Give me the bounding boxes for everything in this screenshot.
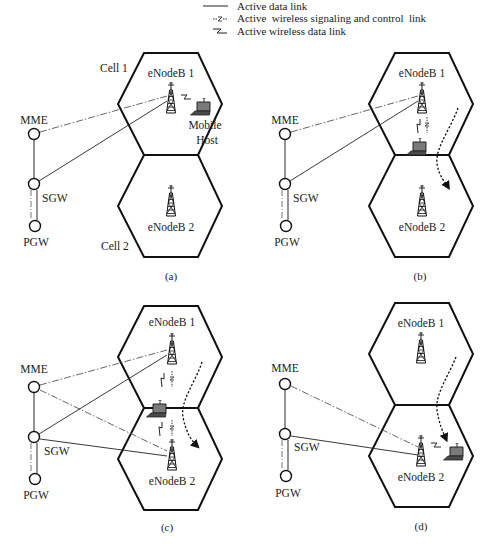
mobile-host-label-line2: Host	[196, 134, 219, 146]
legend: Active data link Active wireless signali…	[203, 0, 427, 37]
mobile-host-laptop-icon	[191, 99, 211, 116]
legend-item-wireless-data-link: Active wireless data link	[213, 25, 347, 37]
wireless-signaling-link-icon	[425, 117, 429, 133]
enb1-label: eNodeB 1	[148, 67, 195, 79]
enb2-label: eNodeB 2	[398, 471, 445, 483]
mme-node	[29, 382, 40, 393]
panel-d: MME SGW PGW eNodeB 1 eNodeB 2 (d)	[271, 303, 473, 533]
handover-diagram: Active data link Active wireless signali…	[0, 0, 493, 550]
wireless-zigzag-icon	[213, 29, 227, 33]
legend-label: Active wireless data link	[237, 25, 347, 37]
sgw-node	[280, 429, 291, 440]
mme-enb1-signaling-link	[40, 350, 167, 385]
enb1-label: eNodeB 1	[149, 316, 196, 328]
mme-node	[280, 379, 291, 390]
movement-arrow	[437, 108, 458, 187]
wireless-data-link-icon	[161, 373, 164, 387]
panel-caption: (c)	[161, 521, 174, 534]
mobile-host-label-line1: Mobile	[188, 119, 221, 131]
cell-1-label: Cell 1	[100, 62, 128, 74]
signaling-link-icon	[213, 17, 228, 21]
mme-label: MME	[20, 114, 47, 126]
sgw-label: SGW	[44, 445, 70, 457]
mme-label: MME	[20, 363, 47, 375]
enb1-tower-icon	[168, 333, 177, 364]
mme-enb1-signaling-link	[40, 96, 167, 132]
pgw-label: PGW	[274, 236, 300, 248]
enb2-tower-icon	[417, 435, 426, 466]
mobile-host-laptop-icon	[444, 444, 464, 461]
pgw-label: PGW	[23, 489, 49, 501]
mme-enb1-signaling-link	[291, 96, 418, 132]
sgw-enb1-data-link	[39, 355, 167, 434]
legend-item-signaling-link: Active wireless signaling and control li…	[213, 12, 427, 24]
mobile-host-laptop-icon	[407, 139, 427, 156]
panel-a: MME SGW PGW eNodeB 1 eNodeB 2 Cell 1 Cel…	[20, 53, 222, 283]
enb1-label: eNodeB 1	[398, 317, 445, 329]
enb2-tower-icon	[418, 185, 427, 216]
pgw-label: PGW	[23, 236, 49, 248]
wireless-signaling-link-icon	[170, 420, 174, 436]
legend-item-data-link: Active data link	[203, 0, 308, 12]
panel-b: MME SGW PGW eNodeB 1 eNodeB 2 (b)	[271, 53, 473, 283]
sgw-label: SGW	[294, 441, 320, 453]
panel-caption: (a)	[165, 270, 178, 283]
wireless-data-link-icon	[431, 443, 441, 447]
wireless-data-link-icon	[417, 119, 420, 133]
sgw-node	[29, 179, 40, 190]
cell-2-label: Cell 2	[101, 240, 129, 252]
enb2-label: eNodeB 2	[399, 221, 446, 233]
sgw-node	[280, 179, 291, 190]
pgw-node	[281, 221, 292, 232]
sgw-label: SGW	[42, 192, 68, 204]
panel-caption: (d)	[415, 520, 428, 533]
enb2-label: eNodeB 2	[149, 475, 196, 487]
pgw-node	[30, 221, 41, 232]
enb1-tower-icon	[418, 82, 427, 113]
panel-caption: (b)	[414, 270, 427, 283]
enb2-tower-icon	[168, 439, 177, 470]
mme-enb2-signaling-link	[291, 386, 418, 447]
legend-label: Active data link	[237, 0, 308, 12]
pgw-node	[281, 471, 292, 482]
sgw-enb1-data-link	[290, 101, 418, 181]
mme-node	[29, 129, 40, 140]
mme-node	[280, 129, 291, 140]
wireless-data-link-icon	[159, 422, 162, 436]
wireless-data-link-icon	[181, 95, 191, 99]
enb1-label: eNodeB 1	[399, 67, 446, 79]
sgw-label: SGW	[293, 192, 319, 204]
mme-label: MME	[271, 114, 298, 126]
enb1-tower-icon	[167, 82, 176, 113]
legend-label: Active wireless signaling and control li…	[237, 12, 427, 24]
panel-c: MME SGW PGW eNodeB 1 eNodeB 2 (c)	[20, 306, 222, 534]
enb2-tower-icon	[167, 185, 176, 216]
pgw-node	[30, 474, 41, 485]
mme-label: MME	[271, 362, 298, 374]
sgw-node	[29, 432, 40, 443]
pgw-label: PGW	[275, 487, 301, 499]
cell-2-hexagon	[118, 408, 222, 510]
enb2-label: eNodeB 2	[148, 221, 195, 233]
sgw-enb1-data-link	[39, 101, 167, 181]
wireless-signaling-link-icon	[170, 371, 174, 387]
enb1-tower-icon	[417, 332, 426, 363]
